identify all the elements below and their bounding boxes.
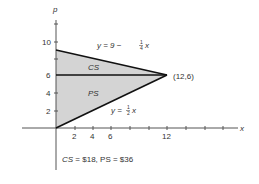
caption-cs-label: CS: [62, 155, 73, 164]
svg-text:y =: y =: [110, 106, 122, 115]
caption-cs-value: = $18,: [73, 155, 100, 164]
supply-equation: y = 1 2 x: [110, 104, 137, 116]
y-tick-6: 6: [46, 71, 51, 80]
y-tick-10: 10: [42, 38, 51, 47]
caption-ps-value: = $36: [111, 155, 133, 164]
x-tick-2: 2: [72, 132, 77, 141]
surplus-diagram: p x 10 6 4 2 2 4 6 12 CS PS y = 9 − 1 4 …: [0, 0, 259, 184]
x-axis-label: x: [239, 124, 245, 133]
surplus-caption: CS = $18, PS = $36: [62, 155, 133, 164]
demand-equation: y = 9 − 1 4 x: [96, 39, 150, 51]
x-tick-12: 12: [162, 132, 171, 141]
svg-text:y = 9 −: y = 9 −: [96, 41, 122, 50]
svg-text:x: x: [144, 41, 150, 50]
x-tick-6: 6: [108, 132, 113, 141]
equilibrium-point-label: (12,6): [173, 72, 194, 81]
y-tick-4: 4: [46, 89, 51, 98]
y-tick-2: 2: [46, 107, 51, 116]
x-tick-4: 4: [90, 132, 95, 141]
svg-text:x: x: [131, 106, 137, 115]
ps-label: PS: [88, 89, 99, 98]
caption-ps-label: PS: [100, 155, 111, 164]
cs-label: CS: [88, 63, 100, 72]
svg-text:4: 4: [140, 45, 143, 51]
y-axis-label: p: [52, 5, 58, 14]
svg-text:2: 2: [127, 110, 130, 116]
